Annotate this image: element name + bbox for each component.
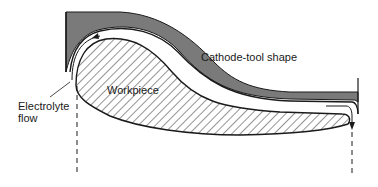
electrolyte-label-line1: Electrolyte	[18, 100, 69, 112]
flow-arrow-down-icon	[349, 122, 355, 130]
cathode-tool-label: Cathode-tool shape	[201, 51, 297, 63]
electrolyte-flow-label: Electrolyte flow	[18, 100, 69, 124]
workpiece-label: Workpiece	[107, 84, 159, 96]
ecm-diagram	[0, 0, 378, 187]
electrolyte-label-line2: flow	[18, 112, 69, 124]
electrolyte-leader-line	[50, 82, 70, 97]
